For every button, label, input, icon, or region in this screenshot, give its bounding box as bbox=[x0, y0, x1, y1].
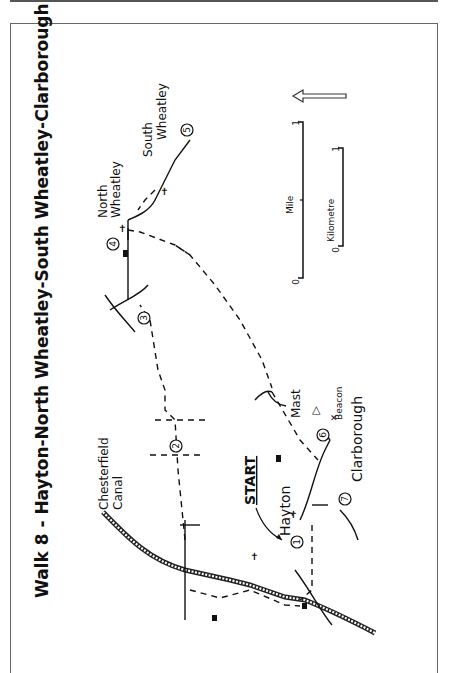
waypoint-6: 6 bbox=[318, 432, 328, 438]
waypoint-4: 4 bbox=[108, 241, 118, 247]
label-north-wheatley-line1: North bbox=[96, 184, 110, 218]
scale-mile-start: 0 bbox=[291, 279, 301, 285]
label-south-wheatley-line1: South bbox=[141, 122, 155, 157]
label-beacon: Beacon bbox=[334, 387, 344, 420]
scale-mile-end: 1 bbox=[291, 120, 301, 126]
waypoint-5: 5 bbox=[182, 127, 192, 133]
scale-bar-mile bbox=[298, 122, 303, 278]
waypoint-7: 7 bbox=[340, 496, 350, 502]
svg-text:✝: ✝ bbox=[250, 551, 258, 562]
building-icons bbox=[123, 250, 307, 621]
scale-km-label: Kilometre bbox=[326, 198, 336, 242]
scale-bar-kilometre bbox=[338, 148, 343, 246]
church-icons: ✝ ✝ ✝ ✝ bbox=[118, 186, 297, 562]
waypoint-1: 1 bbox=[292, 539, 302, 545]
svg-text:✝: ✝ bbox=[160, 186, 168, 197]
scale-km-start: 0 bbox=[331, 247, 341, 253]
label-start: START bbox=[242, 455, 258, 505]
north-arrow-icon bbox=[293, 90, 346, 102]
map-title: Walk 8 - Hayton-North Wheatley-South Whe… bbox=[32, 3, 52, 598]
scale-km-end: 1 bbox=[331, 146, 341, 152]
canal-label-line2: Canal bbox=[111, 476, 125, 510]
chesterfield-canal bbox=[103, 512, 375, 633]
scale-mile-label: Mile bbox=[285, 195, 295, 214]
label-north-wheatley-line2: Wheatley bbox=[109, 161, 123, 218]
waypoint-markers: 4 3 5 2 6 7 1 bbox=[107, 124, 351, 548]
waypoint-3: 3 bbox=[139, 315, 149, 321]
canal-label-line1: Chesterfield bbox=[97, 437, 111, 510]
waypoint-2: 2 bbox=[171, 443, 181, 449]
mast-triangle-icon: △ bbox=[312, 403, 321, 416]
label-south-wheatley-line2: Wheatley bbox=[155, 83, 169, 140]
svg-text:✝: ✝ bbox=[118, 223, 126, 234]
label-clarborough: Clarborough bbox=[349, 396, 365, 482]
label-hayton: Hayton bbox=[277, 486, 293, 536]
label-mast: Mast bbox=[289, 389, 303, 418]
